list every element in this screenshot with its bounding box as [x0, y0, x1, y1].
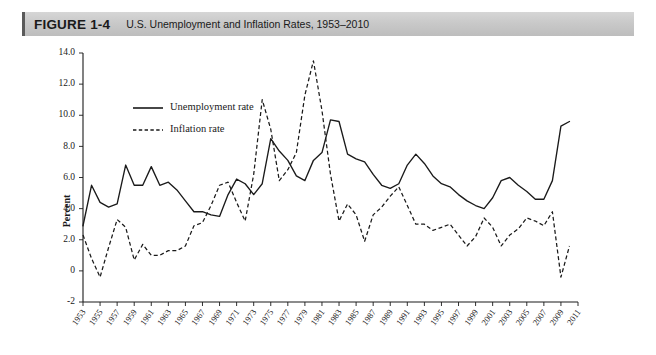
legend-label-unemployment-rate: Unemployment rate: [170, 101, 254, 112]
x-tick-label: 1987: [360, 307, 378, 327]
x-tick-label: 1979: [291, 307, 309, 327]
x-tick-label: 1961: [138, 307, 156, 327]
x-tick-label: 1975: [257, 307, 275, 327]
chart-legend: Unemployment rate Inflation rate: [133, 101, 254, 134]
figure-header-accent: [22, 12, 25, 36]
figure-title: U.S. Unemployment and Inflation Rates, 1…: [126, 18, 369, 30]
x-tick-label: 1995: [428, 307, 446, 327]
chart-container: Percent -202.04.06.08.010.012.014.0 1953…: [0, 36, 656, 355]
x-tick-label: 1967: [189, 307, 207, 327]
figure-header-bar: FIGURE 1-4 U.S. Unemployment and Inflati…: [22, 12, 634, 36]
x-tick-label: 2011: [565, 307, 583, 327]
x-tick-label: 1983: [326, 307, 344, 327]
x-tick-label: 2003: [496, 307, 514, 327]
y-tick-label: 10.0: [58, 109, 75, 119]
y-tick-label: 14.0: [58, 47, 75, 57]
figure-label: FIGURE 1-4: [34, 17, 110, 32]
x-tick-label: 1969: [206, 307, 224, 327]
series-line-unemployment-rate: [83, 120, 569, 226]
x-tick-label: 1973: [240, 307, 258, 327]
x-axis-ticks: 1953195519571959196119631965196719691971…: [70, 302, 583, 327]
x-tick-label: 1993: [411, 307, 429, 327]
y-axis-ticks: -202.04.06.08.010.012.014.0: [58, 47, 83, 306]
x-tick-label: 1977: [274, 307, 292, 327]
y-tick-label: 4.0: [63, 203, 75, 213]
x-tick-label: 1999: [462, 307, 480, 327]
legend-label-inflation-rate: Inflation rate: [170, 123, 225, 134]
line-chart: Percent -202.04.06.08.010.012.014.0 1953…: [0, 36, 656, 355]
y-tick-label: 6.0: [63, 172, 75, 182]
y-tick-label: 12.0: [58, 78, 75, 88]
x-tick-label: 1963: [155, 307, 173, 327]
x-tick-label: 2001: [479, 307, 497, 327]
x-tick-label: 1957: [104, 307, 122, 327]
x-tick-label: 1981: [309, 307, 327, 327]
x-tick-label: 1955: [87, 307, 105, 327]
x-tick-label: 2005: [513, 307, 531, 327]
x-tick-label: 1989: [377, 307, 395, 327]
x-tick-label: 1997: [445, 307, 463, 327]
x-tick-label: 1959: [121, 307, 139, 327]
x-tick-label: 1971: [223, 307, 241, 327]
y-tick-label: 2.0: [63, 234, 75, 244]
y-tick-label: -2: [67, 296, 75, 306]
series-line-inflation-rate: [83, 61, 569, 277]
y-tick-label: 0: [70, 265, 75, 275]
x-tick-label: 1985: [343, 307, 361, 327]
x-tick-label: 1953: [70, 307, 88, 327]
x-tick-label: 1991: [394, 307, 412, 327]
y-tick-label: 8.0: [63, 141, 75, 151]
x-tick-label: 1965: [172, 307, 190, 327]
x-tick-label: 2007: [530, 307, 548, 327]
x-tick-label: 2009: [548, 307, 566, 327]
